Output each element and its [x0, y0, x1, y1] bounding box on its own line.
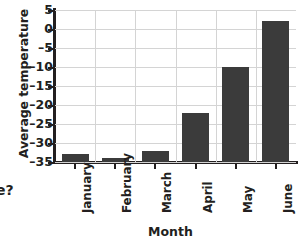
- x-axis-tick-label: June: [281, 184, 295, 213]
- x-axis-title: Month: [0, 224, 303, 239]
- x-axis-tick-label: April: [201, 181, 215, 213]
- x-axis-tick-mark: [74, 164, 76, 169]
- gridline-vertical: [216, 10, 217, 162]
- y-axis-tick-mark: [48, 105, 55, 107]
- y-axis-tick-labels: 50–5–10–15–20–25–30–35: [20, 0, 53, 165]
- gridline-vertical: [176, 10, 177, 162]
- y-axis-tick-mark: [48, 10, 55, 12]
- x-axis-tick-mark: [275, 164, 277, 169]
- gridline-vertical: [95, 10, 96, 162]
- plot-area: [55, 10, 296, 162]
- x-axis-title-text: Month: [148, 224, 193, 239]
- x-axis-tick-mark: [154, 164, 156, 169]
- x-axis-tick-label: May: [241, 186, 255, 213]
- cropped-question-text: e?: [0, 182, 14, 198]
- x-axis-tick-label: February: [120, 153, 134, 213]
- bar: [182, 113, 209, 162]
- x-axis-tick-label: March: [160, 172, 174, 213]
- bar: [222, 67, 249, 162]
- bar: [262, 21, 289, 162]
- x-axis-tick-mark: [114, 164, 116, 169]
- x-axis-tick-mark: [235, 164, 237, 169]
- y-axis-tick-mark: [48, 29, 55, 31]
- bar: [62, 154, 89, 162]
- bar-chart: Average temperature 50–5–10–15–20–25–30–…: [0, 0, 303, 244]
- y-axis-tick-mark: [48, 162, 55, 164]
- y-axis-tick-mark: [48, 67, 55, 69]
- gridline-vertical: [256, 10, 257, 162]
- x-axis-tick-mark: [195, 164, 197, 169]
- y-axis-tick-mark: [48, 143, 55, 145]
- y-axis-tick-mark: [48, 48, 55, 50]
- gridline-vertical: [135, 10, 136, 162]
- x-axis-tick-label: January: [80, 162, 94, 213]
- y-axis-tick-mark: [48, 124, 55, 126]
- y-axis-tick-mark: [48, 86, 55, 88]
- bar: [142, 151, 169, 162]
